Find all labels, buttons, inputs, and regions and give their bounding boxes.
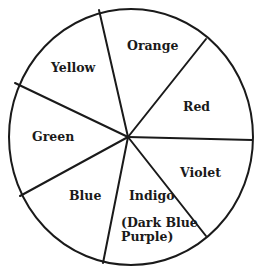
- segment-label-yellow: Yellow: [51, 62, 95, 75]
- segment-note-indigo: (Dark Blue Purple): [121, 216, 198, 244]
- segment-label-violet: Violet: [180, 167, 221, 180]
- color-wheel-diagram: Orange Red Violet Indigo Blue Green Yell…: [0, 0, 257, 271]
- spoke-indigo-blue: [103, 137, 128, 263]
- spoke-red-violet: [128, 137, 252, 140]
- segment-label-green: Green: [32, 131, 74, 144]
- spoke-yellow-orange: [99, 10, 128, 137]
- spoke-orange-red: [128, 39, 206, 137]
- segment-label-orange: Orange: [127, 40, 178, 53]
- segment-label-indigo: Indigo: [129, 190, 175, 203]
- segment-label-red: Red: [183, 101, 210, 114]
- segment-label-blue: Blue: [69, 190, 101, 203]
